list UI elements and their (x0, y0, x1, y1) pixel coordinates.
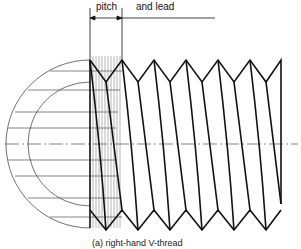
thread-diagram (0, 0, 301, 249)
pitch-dimension (90, 8, 215, 60)
figure-caption: (a) right-hand V-thread (92, 238, 183, 248)
thread-profile (90, 60, 281, 230)
